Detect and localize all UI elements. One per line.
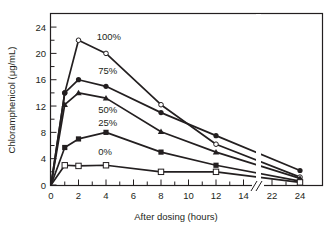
y-tick-label: 0 bbox=[41, 180, 46, 191]
y-tick-label: 8 bbox=[41, 127, 46, 138]
filled-circle-marker bbox=[158, 110, 163, 115]
filled-circle-marker bbox=[213, 133, 218, 138]
open-circle-marker bbox=[76, 38, 81, 43]
x-axis: 024681012142224 bbox=[48, 180, 305, 202]
open-circle-marker bbox=[214, 142, 219, 147]
x-tick-label: 2 bbox=[76, 190, 81, 201]
filled-square-marker bbox=[76, 136, 81, 141]
line-chart: 04812162024 024681012142224 100%75%50%25… bbox=[0, 0, 336, 235]
filled-square-marker bbox=[213, 163, 218, 168]
y-tick-label: 4 bbox=[41, 153, 46, 164]
open-square-marker bbox=[62, 163, 67, 168]
filled-square-marker bbox=[103, 130, 108, 135]
series-label: 50% bbox=[98, 104, 118, 115]
filled-circle-marker bbox=[103, 84, 108, 89]
y-tick-label: 16 bbox=[35, 74, 46, 85]
series-0pct: 0% bbox=[51, 146, 303, 185]
series-25pct: 25% bbox=[51, 117, 303, 185]
series-label: 75% bbox=[98, 65, 118, 76]
x-tick-label: 6 bbox=[131, 190, 136, 201]
x-tick-label: 4 bbox=[103, 190, 108, 201]
x-tick-label: 24 bbox=[295, 190, 306, 201]
open-circle-marker bbox=[104, 51, 109, 56]
filled-circle-marker bbox=[297, 168, 302, 173]
open-square-marker bbox=[213, 169, 218, 174]
y-tick-label: 24 bbox=[35, 22, 46, 33]
series-label: 100% bbox=[97, 31, 122, 42]
series-label: 25% bbox=[98, 117, 118, 128]
x-tick-label: 0 bbox=[48, 190, 53, 201]
open-square-marker bbox=[76, 163, 81, 168]
x-tick-label: 22 bbox=[267, 190, 278, 201]
open-square-marker bbox=[158, 169, 163, 174]
series-line bbox=[51, 165, 300, 185]
break-gap bbox=[256, 14, 261, 185]
open-square-marker bbox=[103, 163, 108, 168]
filled-square-marker bbox=[62, 145, 67, 150]
series-label: 0% bbox=[98, 146, 112, 157]
x-axis-title: After dosing (hours) bbox=[134, 211, 217, 222]
x-tick-label: 8 bbox=[158, 190, 163, 201]
x-tick-label: 14 bbox=[238, 190, 249, 201]
y-axis-title: Chloramphenicol (μg/mL) bbox=[6, 47, 17, 154]
filled-circle-marker bbox=[62, 90, 67, 95]
x-tick-label: 12 bbox=[211, 190, 222, 201]
open-circle-marker bbox=[159, 102, 164, 107]
series-100pct: 100% bbox=[51, 31, 302, 185]
y-tick-label: 20 bbox=[35, 48, 46, 59]
filled-circle-marker bbox=[76, 77, 81, 82]
series-line bbox=[51, 40, 300, 185]
x-tick-label: 10 bbox=[183, 190, 194, 201]
series-layer: 100%75%50%25%0% bbox=[51, 31, 303, 185]
plot-frame bbox=[51, 14, 323, 186]
open-square-marker bbox=[297, 180, 302, 185]
y-tick-label: 12 bbox=[35, 101, 46, 112]
filled-square-marker bbox=[158, 150, 163, 155]
